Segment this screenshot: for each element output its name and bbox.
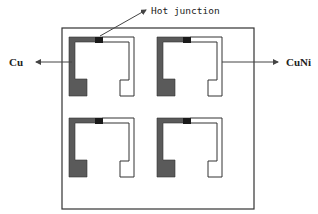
sensor-top-right xyxy=(157,37,222,96)
cuni-label: CuNi xyxy=(286,56,311,68)
thermocouple-diagram: Hot junction Cu CuNi xyxy=(0,0,318,214)
sensor-bottom-left xyxy=(69,118,134,177)
hot-junction-arrow xyxy=(100,10,146,36)
sensor-bottom-right xyxy=(157,118,222,177)
sensor-top-left xyxy=(69,37,134,96)
hot-junction-label: Hot junction xyxy=(151,5,220,16)
cu-label: Cu xyxy=(9,56,23,68)
